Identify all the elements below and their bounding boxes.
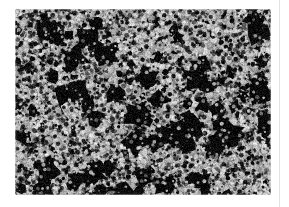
micrograph-image [15,9,271,195]
micrograph-figure-panel [15,9,271,195]
micrograph-alt-text: Grayscale electron micrograph of densely… [0,0,1,1]
page-root: Grayscale electron micrograph of densely… [0,0,289,207]
column-rule-divider [279,0,280,207]
